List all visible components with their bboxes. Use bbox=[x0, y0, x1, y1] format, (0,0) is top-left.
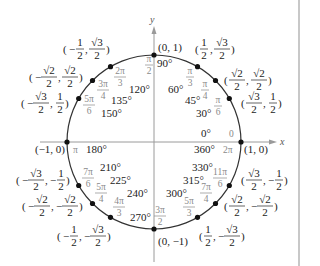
svg-text:,: , bbox=[50, 97, 53, 109]
radian-label-0: 0 bbox=[229, 129, 234, 139]
svg-text:(: ( bbox=[195, 43, 199, 56]
svg-text:√3: √3 bbox=[226, 223, 238, 235]
svg-text:6: 6 bbox=[216, 107, 221, 117]
svg-text:π: π bbox=[203, 79, 208, 89]
svg-text:√3: √3 bbox=[216, 36, 228, 48]
svg-text:π: π bbox=[147, 54, 152, 64]
degree-label-0: 0° bbox=[201, 127, 211, 139]
svg-text:√3: √3 bbox=[30, 167, 42, 179]
radian-label-7pi-4: 7π 4 bbox=[200, 182, 212, 204]
svg-text:): ) bbox=[107, 230, 111, 243]
svg-text:6: 6 bbox=[87, 106, 92, 116]
point-90 bbox=[151, 52, 156, 57]
radian-label-pi-3: π 3 bbox=[186, 66, 194, 88]
coord-label-0: (1, 0) bbox=[244, 143, 268, 156]
svg-text:−: − bbox=[218, 230, 224, 242]
point-135 bbox=[90, 78, 95, 83]
svg-text:2: 2 bbox=[270, 103, 276, 115]
svg-text:2: 2 bbox=[219, 49, 225, 61]
degree-label-330: 330° bbox=[192, 161, 213, 173]
svg-text:2: 2 bbox=[77, 49, 83, 61]
svg-text:2: 2 bbox=[67, 77, 73, 89]
svg-text:,: , bbox=[85, 43, 88, 55]
svg-text:2: 2 bbox=[262, 206, 268, 218]
svg-text:(: ( bbox=[29, 71, 33, 84]
svg-text:2: 2 bbox=[251, 180, 257, 192]
point-300 bbox=[195, 215, 200, 220]
svg-text:√3: √3 bbox=[248, 90, 260, 102]
svg-text:5π: 5π bbox=[184, 196, 194, 206]
radian-label-3pi-2: 3π 2 bbox=[154, 205, 166, 227]
svg-text:−: − bbox=[28, 200, 34, 212]
svg-text:(: ( bbox=[21, 97, 25, 110]
coord-label-150: ( − √3 2 , 1 2 ) bbox=[21, 90, 69, 115]
svg-text:,: , bbox=[45, 174, 48, 186]
svg-text:4: 4 bbox=[204, 194, 209, 204]
svg-text:1: 1 bbox=[58, 167, 64, 179]
svg-text:3π: 3π bbox=[155, 205, 165, 215]
svg-text:): ) bbox=[268, 74, 272, 87]
svg-text:2: 2 bbox=[276, 180, 282, 192]
svg-text:,: , bbox=[263, 174, 266, 186]
degree-label-120: 120° bbox=[129, 83, 150, 95]
svg-text:π: π bbox=[216, 95, 221, 105]
svg-text:,: , bbox=[210, 43, 213, 55]
svg-text:√2: √2 bbox=[259, 193, 271, 205]
svg-text:): ) bbox=[65, 97, 69, 110]
svg-text:,: , bbox=[79, 230, 82, 242]
radian-label-5pi-4: 5π 4 bbox=[95, 182, 107, 204]
svg-text:√3: √3 bbox=[91, 36, 103, 48]
svg-text:2: 2 bbox=[39, 206, 45, 218]
svg-text:2: 2 bbox=[234, 80, 240, 92]
radian-label-pi-4: π 4 bbox=[201, 79, 209, 101]
svg-text:(: ( bbox=[224, 200, 228, 213]
svg-text:π: π bbox=[188, 66, 193, 76]
svg-text:11π: 11π bbox=[213, 167, 227, 177]
svg-text:1: 1 bbox=[77, 36, 83, 48]
svg-text:−: − bbox=[251, 200, 257, 212]
coord-label-225: ( − √2 2 , − √2 2 ) bbox=[22, 193, 83, 218]
svg-text:(: ( bbox=[241, 97, 245, 110]
svg-text:(: ( bbox=[63, 43, 67, 56]
svg-text:7π: 7π bbox=[201, 182, 211, 192]
point-180 bbox=[64, 139, 69, 144]
svg-text:−: − bbox=[69, 43, 75, 55]
svg-text:2: 2 bbox=[58, 180, 64, 192]
point-210 bbox=[76, 183, 81, 188]
svg-text:,: , bbox=[213, 230, 216, 242]
svg-text:7π: 7π bbox=[83, 167, 93, 177]
svg-text:√3: √3 bbox=[92, 223, 104, 235]
radian-label-2pi: 2π bbox=[223, 145, 233, 155]
svg-text:2π: 2π bbox=[115, 66, 125, 76]
svg-text:−: − bbox=[27, 97, 33, 109]
point-150 bbox=[76, 96, 81, 101]
svg-text:): ) bbox=[278, 97, 282, 110]
svg-text:−: − bbox=[35, 71, 41, 83]
right-border bbox=[298, 0, 300, 266]
svg-text:(: ( bbox=[224, 74, 228, 87]
degree-label-30: 30° bbox=[196, 107, 211, 119]
svg-text:2: 2 bbox=[205, 236, 211, 248]
svg-text:): ) bbox=[79, 71, 83, 84]
svg-text:): ) bbox=[66, 174, 70, 187]
coord-label-330: ( √3 2 , − 1 2 ) bbox=[241, 167, 288, 192]
svg-text:√2: √2 bbox=[64, 193, 76, 205]
svg-text:1: 1 bbox=[205, 223, 211, 235]
point-45 bbox=[213, 78, 218, 83]
degree-label-210: 210° bbox=[100, 161, 121, 173]
coord-label-180: (−1, 0) bbox=[35, 143, 65, 156]
radian-label-pi: π bbox=[73, 145, 78, 155]
svg-text:): ) bbox=[231, 43, 235, 56]
svg-text:,: , bbox=[246, 200, 249, 212]
degree-label-45: 45° bbox=[185, 94, 200, 106]
degree-label-150: 150° bbox=[101, 107, 122, 119]
coord-label-90: (0, 1) bbox=[158, 41, 182, 54]
svg-text:−: − bbox=[22, 174, 28, 186]
svg-text:−: − bbox=[268, 174, 274, 186]
svg-text:3π: 3π bbox=[98, 79, 108, 89]
degree-label-135: 135° bbox=[111, 94, 132, 106]
coord-label-60: ( 1 2 , √3 2 ) bbox=[195, 36, 235, 61]
svg-text:1: 1 bbox=[201, 36, 207, 48]
degree-label-360: 360° bbox=[194, 143, 215, 155]
svg-text:,: , bbox=[263, 97, 266, 109]
